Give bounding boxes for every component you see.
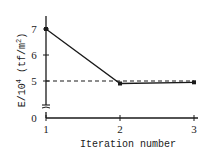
data-point-2 xyxy=(118,82,122,86)
axis-break-mark-bottom xyxy=(42,107,50,108)
x-axis-label: Iteration number xyxy=(80,139,176,150)
chart: 7 6 5 0 1 2 3 Iteration number E/104 (tf… xyxy=(0,0,213,154)
x-tick-label-1: 1 xyxy=(43,123,49,135)
y-tick-label-6: 6 xyxy=(31,49,37,61)
y-tick-label-5: 5 xyxy=(31,75,37,87)
data-point-3 xyxy=(192,80,196,84)
y-axis-label: E/104 (tf/m2) xyxy=(15,33,28,107)
y-tick-label-7: 7 xyxy=(31,23,37,35)
x-tick-label-3: 3 xyxy=(191,123,197,135)
x-tick-label-2: 2 xyxy=(117,123,123,135)
data-point-1 xyxy=(44,27,48,31)
y-tick-label-0: 0 xyxy=(31,112,37,124)
computed-series-line xyxy=(46,29,194,84)
